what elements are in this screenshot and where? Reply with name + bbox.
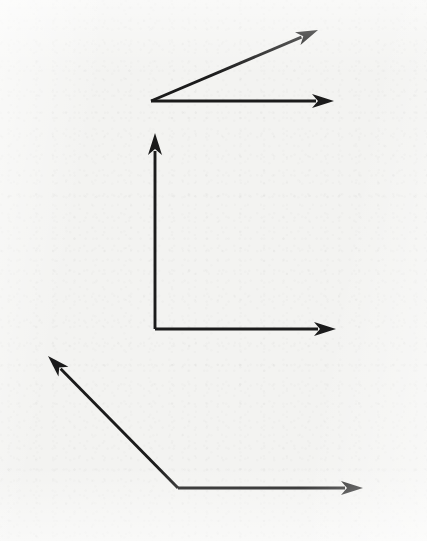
acute-angle-horizontal-ray <box>151 94 334 108</box>
right-angle-horizontal-ray <box>155 322 336 336</box>
obtuse-angle-upper-left-diagonal-ray <box>43 351 178 488</box>
obtuse-angle-group <box>43 351 363 495</box>
angle-diagram-canvas: Three angle diagrams Hand-drawn geometry… <box>0 0 427 541</box>
figure-page: Three angle diagrams Hand-drawn geometry… <box>0 0 427 541</box>
acute-angle-group <box>151 24 334 108</box>
right-angle-vertical-ray <box>148 133 162 329</box>
right-angle-group <box>148 133 336 336</box>
obtuse-angle-horizontal-ray <box>178 481 363 495</box>
ray-line <box>61 369 178 488</box>
arrowhead-icon <box>295 24 321 45</box>
ray-line <box>151 37 301 101</box>
acute-angle-upper-slanted-ray <box>151 24 321 101</box>
